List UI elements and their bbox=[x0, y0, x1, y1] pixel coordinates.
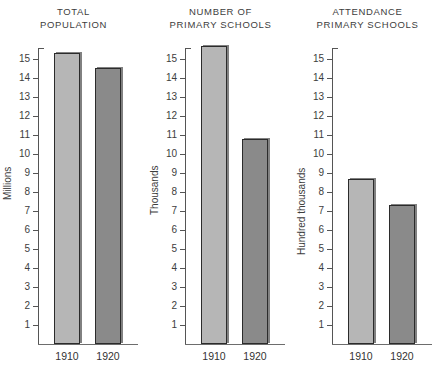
y-axis-tick: 1 bbox=[327, 325, 333, 326]
y-axis-tick-label: 14 bbox=[313, 71, 324, 84]
y-axis-line bbox=[185, 48, 186, 345]
x-axis-label: 1910 bbox=[343, 350, 379, 362]
y-axis-tick-label: 12 bbox=[313, 109, 324, 122]
y-axis-tick: 5 bbox=[33, 249, 39, 250]
y-axis-title: Hundred thousands bbox=[296, 105, 310, 255]
y-axis-tick: 15 bbox=[180, 59, 186, 60]
y-axis-tick: 12 bbox=[180, 116, 186, 117]
y-axis-tick-label: 14 bbox=[19, 71, 30, 84]
y-axis-tick: 9 bbox=[33, 173, 39, 174]
y-axis-tick: 10 bbox=[180, 154, 186, 155]
chart-panel-1: TOTALPOPULATION1234567891011121314151910… bbox=[0, 0, 147, 378]
y-axis-cap bbox=[185, 48, 191, 49]
y-axis-tick-label: 8 bbox=[318, 185, 324, 198]
y-axis-tick: 11 bbox=[33, 135, 39, 136]
x-axis-line bbox=[38, 344, 138, 345]
y-axis-tick-label: 13 bbox=[166, 90, 177, 103]
y-axis-tick: 14 bbox=[180, 78, 186, 79]
y-axis-tick: 6 bbox=[327, 230, 333, 231]
y-axis-tick: 13 bbox=[327, 97, 333, 98]
y-axis-tick: 7 bbox=[33, 211, 39, 212]
x-axis-line bbox=[332, 344, 432, 345]
y-axis-tick-label: 8 bbox=[24, 185, 30, 198]
y-axis-tick-label: 11 bbox=[314, 128, 324, 141]
chart-title-line: PRIMARY SCHOOLS bbox=[147, 19, 294, 32]
x-axis-label: 1910 bbox=[49, 350, 85, 362]
y-axis-tick-label: 10 bbox=[19, 147, 30, 160]
y-axis-tick: 4 bbox=[33, 268, 39, 269]
bar-1910 bbox=[348, 179, 374, 344]
chart-title-line: TOTAL bbox=[0, 6, 147, 19]
y-axis-tick-label: 2 bbox=[24, 299, 30, 312]
y-axis-tick: 9 bbox=[327, 173, 333, 174]
x-axis-label: 1920 bbox=[384, 350, 420, 362]
y-axis-tick-label: 4 bbox=[318, 261, 324, 274]
y-axis-tick-label: 7 bbox=[171, 204, 177, 217]
y-axis-tick: 2 bbox=[33, 306, 39, 307]
y-axis-tick: 1 bbox=[33, 325, 39, 326]
y-axis-tick: 5 bbox=[327, 249, 333, 250]
y-axis-tick-label: 8 bbox=[171, 185, 177, 198]
y-axis-tick: 4 bbox=[327, 268, 333, 269]
y-axis-tick: 2 bbox=[327, 306, 333, 307]
y-axis-tick: 10 bbox=[33, 154, 39, 155]
y-axis-line bbox=[38, 48, 39, 345]
plot-area: 123456789101112131415 bbox=[38, 45, 138, 345]
y-axis-tick-label: 13 bbox=[19, 90, 30, 103]
y-axis-tick: 14 bbox=[33, 78, 39, 79]
bar-1920 bbox=[389, 205, 415, 344]
y-axis-tick-label: 1 bbox=[24, 318, 30, 331]
x-axis-label: 1910 bbox=[196, 350, 232, 362]
y-axis-tick-label: 9 bbox=[171, 166, 177, 179]
chart-title-line: NUMBER OF bbox=[147, 6, 294, 19]
y-axis-tick: 3 bbox=[33, 287, 39, 288]
chart-panel-2: NUMBER OFPRIMARY SCHOOLS1234567891011121… bbox=[147, 0, 294, 378]
y-axis-tick: 7 bbox=[180, 211, 186, 212]
bar-1910 bbox=[54, 53, 80, 344]
y-axis-tick: 12 bbox=[327, 116, 333, 117]
y-axis-tick: 11 bbox=[180, 135, 186, 136]
y-axis-tick-label: 11 bbox=[20, 128, 30, 141]
y-axis-tick-label: 15 bbox=[313, 52, 324, 65]
y-axis-tick-label: 12 bbox=[19, 109, 30, 122]
x-axis-label: 1920 bbox=[237, 350, 273, 362]
y-axis-tick: 8 bbox=[327, 192, 333, 193]
y-axis-title: Thousands bbox=[149, 65, 163, 215]
y-axis-tick-label: 12 bbox=[166, 109, 177, 122]
chart-title-line: POPULATION bbox=[0, 19, 147, 32]
chart-title: ATTENDANCEPRIMARY SCHOOLS bbox=[294, 6, 441, 31]
y-axis-tick: 2 bbox=[180, 306, 186, 307]
chart-title-line: ATTENDANCE bbox=[294, 6, 441, 19]
y-axis-tick-label: 15 bbox=[166, 52, 177, 65]
y-axis-tick: 13 bbox=[33, 97, 39, 98]
y-axis-tick: 8 bbox=[33, 192, 39, 193]
y-axis-tick-label: 7 bbox=[24, 204, 30, 217]
y-axis-tick-label: 6 bbox=[171, 223, 177, 236]
y-axis-tick: 14 bbox=[327, 78, 333, 79]
bar-1920 bbox=[242, 139, 268, 344]
y-axis-tick-label: 2 bbox=[171, 299, 177, 312]
x-axis-label: 1920 bbox=[90, 350, 126, 362]
chart-panel-3: ATTENDANCEPRIMARY SCHOOLS123456789101112… bbox=[294, 0, 441, 378]
chart-title: NUMBER OFPRIMARY SCHOOLS bbox=[147, 6, 294, 31]
y-axis-tick-label: 4 bbox=[24, 261, 30, 274]
y-axis-tick: 6 bbox=[33, 230, 39, 231]
y-axis-tick-label: 5 bbox=[24, 242, 30, 255]
y-axis-tick-label: 9 bbox=[318, 166, 324, 179]
y-axis-line bbox=[332, 48, 333, 345]
y-axis-tick: 7 bbox=[327, 211, 333, 212]
y-axis-tick-label: 5 bbox=[318, 242, 324, 255]
y-axis-tick: 1 bbox=[180, 325, 186, 326]
bar-1910 bbox=[201, 46, 227, 344]
y-axis-tick-label: 1 bbox=[171, 318, 177, 331]
y-axis-tick-label: 2 bbox=[318, 299, 324, 312]
y-axis-tick-label: 4 bbox=[171, 261, 177, 274]
chart-title: TOTALPOPULATION bbox=[0, 6, 147, 31]
y-axis-tick-label: 5 bbox=[171, 242, 177, 255]
y-axis-tick: 3 bbox=[327, 287, 333, 288]
y-axis-tick-label: 10 bbox=[313, 147, 324, 160]
plot-area: 123456789101112131415 bbox=[185, 45, 285, 345]
y-axis-tick: 4 bbox=[180, 268, 186, 269]
y-axis-tick: 8 bbox=[180, 192, 186, 193]
y-axis-tick-label: 14 bbox=[166, 71, 177, 84]
